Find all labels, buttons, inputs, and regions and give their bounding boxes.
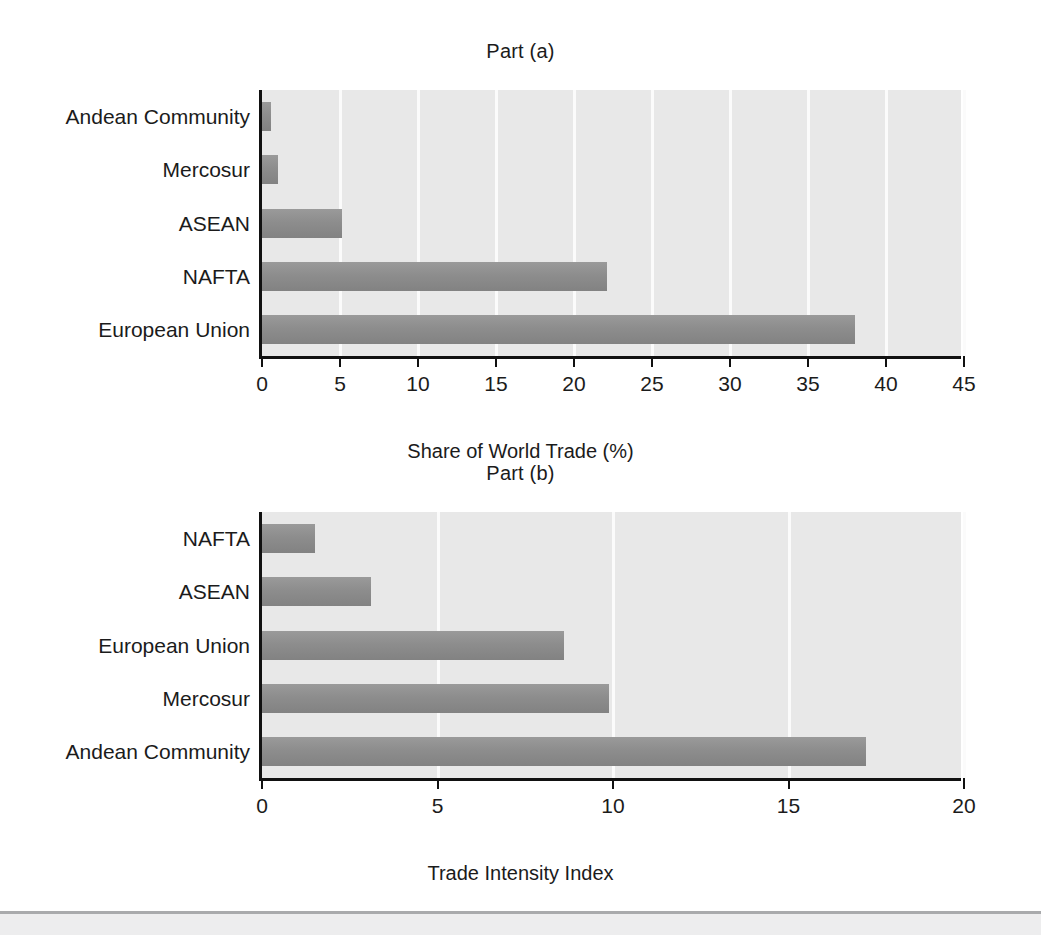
chart-title-a: Part (a) xyxy=(0,40,1041,63)
x-axis-tick xyxy=(437,778,439,789)
y-axis-label-mercosur: Mercosur xyxy=(162,687,250,711)
bar-row: Mercosur xyxy=(262,684,961,713)
y-axis-label-asean: ASEAN xyxy=(179,212,250,236)
bar-row: Andean Community xyxy=(262,737,961,766)
x-axis-tick-label: 20 xyxy=(924,794,1004,818)
x-axis-tick xyxy=(788,778,790,789)
gridline xyxy=(963,90,966,356)
bar-andean-community xyxy=(262,737,866,766)
x-axis-tick xyxy=(963,356,965,367)
y-axis-label-nafta: NAFTA xyxy=(183,265,250,289)
x-axis-tick-label: 10 xyxy=(378,372,458,396)
x-axis-tick xyxy=(495,356,497,367)
x-axis-tick xyxy=(612,778,614,789)
bar-european-union xyxy=(262,315,855,344)
figure-container: Part (a) 051015202530354045Andean Commun… xyxy=(0,0,1041,935)
bar-row: Andean Community xyxy=(262,102,961,131)
x-axis-tick-label: 5 xyxy=(300,372,380,396)
y-axis-label-andean-community: Andean Community xyxy=(66,105,250,129)
bar-row: ASEAN xyxy=(262,209,961,238)
y-axis-label-european-union: European Union xyxy=(98,634,250,658)
gridline xyxy=(963,512,966,778)
bar-asean xyxy=(262,209,342,238)
x-axis-tick xyxy=(261,778,263,789)
x-axis-title-b: Trade Intensity Index xyxy=(0,862,1041,885)
chart-title-b: Part (b) xyxy=(0,462,1041,485)
x-axis-tick-label: 0 xyxy=(222,372,302,396)
x-axis-tick xyxy=(339,356,341,367)
bar-row: NAFTA xyxy=(262,524,961,553)
x-axis-tick-label: 30 xyxy=(690,372,770,396)
bar-andean-community xyxy=(262,102,271,131)
bar-row: European Union xyxy=(262,631,961,660)
x-axis-tick-label: 25 xyxy=(612,372,692,396)
bar-european-union xyxy=(262,631,564,660)
plot-area-a: 051015202530354045Andean CommunityMercos… xyxy=(259,90,961,359)
y-axis-label-mercosur: Mercosur xyxy=(162,158,250,182)
chart-panel-b: Part (b) 05101520NAFTAASEANEuropean Unio… xyxy=(0,462,1041,872)
x-axis-tick xyxy=(729,356,731,367)
x-axis-tick-label: 10 xyxy=(573,794,653,818)
chart-panel-a: Part (a) 051015202530354045Andean Commun… xyxy=(0,40,1041,450)
x-axis-tick-label: 35 xyxy=(768,372,848,396)
x-axis-tick xyxy=(807,356,809,367)
bar-mercosur xyxy=(262,684,609,713)
footer-band xyxy=(0,914,1041,935)
bar-row: Mercosur xyxy=(262,155,961,184)
x-axis-tick xyxy=(573,356,575,367)
x-axis-tick-label: 20 xyxy=(534,372,614,396)
x-axis-tick xyxy=(261,356,263,367)
bar-asean xyxy=(262,577,371,606)
x-axis-tick-label: 15 xyxy=(749,794,829,818)
bar-nafta xyxy=(262,524,315,553)
bar-mercosur xyxy=(262,155,278,184)
y-axis-label-andean-community: Andean Community xyxy=(66,740,250,764)
x-axis-tick-label: 0 xyxy=(222,794,302,818)
y-axis-label-nafta: NAFTA xyxy=(183,527,250,551)
x-axis-tick xyxy=(417,356,419,367)
bar-row: ASEAN xyxy=(262,577,961,606)
x-axis-tick xyxy=(885,356,887,367)
bar-row: European Union xyxy=(262,315,961,344)
x-axis-tick-label: 15 xyxy=(456,372,536,396)
x-axis-tick-label: 45 xyxy=(924,372,1004,396)
bar-row: NAFTA xyxy=(262,262,961,291)
x-axis-tick xyxy=(963,778,965,789)
x-axis-tick-label: 40 xyxy=(846,372,926,396)
plot-area-b: 05101520NAFTAASEANEuropean UnionMercosur… xyxy=(259,512,961,781)
y-axis-label-european-union: European Union xyxy=(98,318,250,342)
x-axis-tick xyxy=(651,356,653,367)
x-axis-tick-label: 5 xyxy=(398,794,478,818)
y-axis-label-asean: ASEAN xyxy=(179,580,250,604)
x-axis-title-a: Share of World Trade (%) xyxy=(0,440,1041,463)
bar-nafta xyxy=(262,262,607,291)
